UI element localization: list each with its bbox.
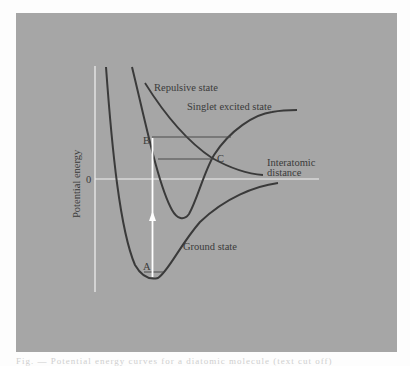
excitation-arrowhead-icon <box>149 211 156 221</box>
interatomic-distance-label-2: distance <box>267 167 302 178</box>
singlet-excited-state-label: Singlet excited state <box>187 101 272 112</box>
figure-caption: Fig. — Potential energy curves for a dia… <box>16 356 397 366</box>
point-c-label: C <box>217 153 224 164</box>
ground-state-label: Ground state <box>183 241 237 252</box>
point-b-label: B <box>143 135 150 146</box>
repulsive-state-label: Repulsive state <box>154 82 218 93</box>
potential-energy-diagram: Potential energy 0 Repulsive state Singl… <box>0 0 410 366</box>
repulsive-state-curve <box>145 83 263 175</box>
zero-label: 0 <box>86 174 91 185</box>
y-axis-label: Potential energy <box>71 149 82 218</box>
point-a-label: A <box>143 261 151 272</box>
